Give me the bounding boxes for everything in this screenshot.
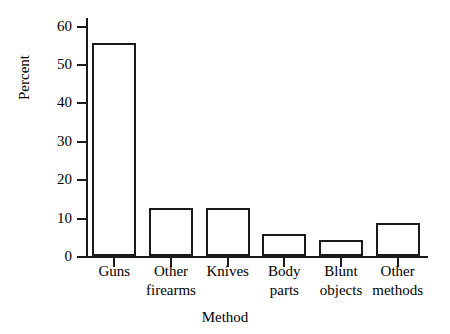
y-axis-tick-label: 60 xyxy=(57,17,72,35)
y-axis-tick: 60 xyxy=(77,26,86,28)
x-axis-category-label: Guns xyxy=(86,262,143,281)
y-axis-tick-label: 30 xyxy=(57,132,72,150)
x-axis-title: Method xyxy=(0,308,450,326)
y-axis-line xyxy=(86,18,88,258)
y-axis-tick-label: 40 xyxy=(57,93,72,111)
x-axis-category-label: Other methods xyxy=(369,262,426,300)
plot-area: 0102030405060 xyxy=(86,18,426,258)
x-axis-line xyxy=(84,256,428,258)
bar xyxy=(206,208,250,256)
y-axis-tick-label: 0 xyxy=(65,247,73,265)
y-axis-tick: 30 xyxy=(77,141,86,143)
y-axis-tick: 0 xyxy=(77,256,86,258)
y-axis-tick-label: 50 xyxy=(57,55,72,73)
bar xyxy=(319,240,363,256)
bar-chart-figure: Percent 0102030405060 GunsOther firearms… xyxy=(0,0,450,334)
x-axis-category-label: Knives xyxy=(199,262,256,281)
x-axis-category-label: Blunt objects xyxy=(313,262,370,300)
x-axis-category-label: Other firearms xyxy=(143,262,200,300)
y-axis-title-container: Percent xyxy=(0,0,60,334)
bar xyxy=(262,234,306,256)
y-axis-tick: 50 xyxy=(77,64,86,66)
y-axis-tick: 20 xyxy=(77,179,86,181)
y-axis-tick: 10 xyxy=(77,218,86,220)
y-axis-tick-label: 20 xyxy=(57,170,72,188)
bar xyxy=(92,43,136,256)
bar xyxy=(376,223,420,256)
y-axis-tick-label: 10 xyxy=(57,209,72,227)
x-axis-category-label: Body parts xyxy=(256,262,313,300)
bar xyxy=(149,208,193,256)
y-axis-title: Percent xyxy=(14,10,34,100)
y-axis-tick: 40 xyxy=(77,102,86,104)
